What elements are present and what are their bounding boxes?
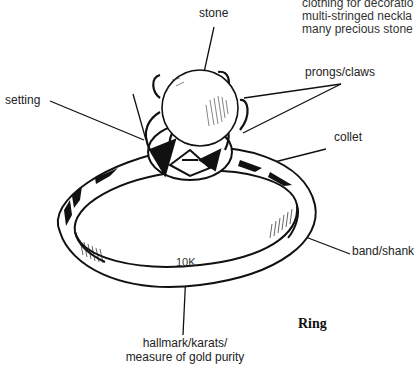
setting-leader — [50, 101, 144, 140]
label-stone: stone — [199, 6, 228, 20]
label-hallmark-line1: hallmark/karats/ — [110, 336, 260, 350]
label-setting: setting — [5, 93, 40, 107]
ring-illustration: 10K — [0, 0, 419, 370]
setting-leader-2 — [133, 94, 146, 140]
label-band-shank: band/shank — [352, 244, 414, 258]
label-prongs-claws: prongs/claws — [305, 65, 375, 79]
stone — [162, 70, 238, 146]
figure-caption: Ring — [298, 316, 327, 332]
label-hallmark: hallmark/karats/ measure of gold purity — [110, 336, 260, 364]
label-hallmark-line2: measure of gold purity — [110, 350, 260, 364]
label-collet: collet — [334, 130, 362, 144]
engraving-text: 10K — [176, 256, 196, 268]
band-leader — [303, 236, 350, 254]
